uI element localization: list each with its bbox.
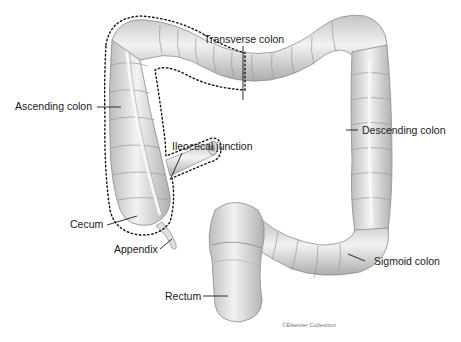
label-ascending-colon: Ascending colon: [15, 101, 92, 112]
transverse-colon-shape: [112, 15, 387, 81]
label-appendix: Appendix: [114, 244, 158, 255]
label-sigmoid-colon: Sigmoid colon: [374, 256, 440, 267]
descending-colon-shape: [351, 45, 392, 232]
label-transverse-colon: Transverse colon: [204, 34, 284, 45]
label-ileocecal-junction: Ileocecal junction: [172, 141, 253, 152]
label-cecum: Cecum: [70, 219, 103, 230]
label-rectum: Rectum: [165, 291, 201, 302]
copyright-notice: ©Elsevier Collection: [282, 322, 336, 328]
colon-diagram: [0, 0, 461, 342]
label-descending-colon: Descending colon: [362, 125, 445, 136]
rectum-shape: [209, 203, 264, 323]
